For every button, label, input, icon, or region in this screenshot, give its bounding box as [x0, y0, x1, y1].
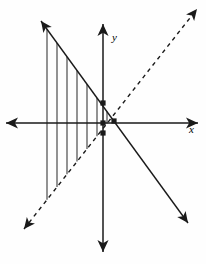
coordinate-plane-svg	[0, 0, 206, 264]
geometry-figure: x y	[0, 0, 206, 264]
point-on-y-axis-lower	[100, 130, 105, 135]
y-axis-label: y	[112, 31, 117, 43]
point-on-y-axis-upper	[100, 100, 105, 105]
vertical-hatch-fill	[47, 29, 107, 200]
x-axis-label: x	[189, 123, 194, 135]
point-intersection	[111, 118, 116, 123]
dashed-identity-line	[24, 9, 197, 229]
point-at-origin	[100, 120, 105, 125]
